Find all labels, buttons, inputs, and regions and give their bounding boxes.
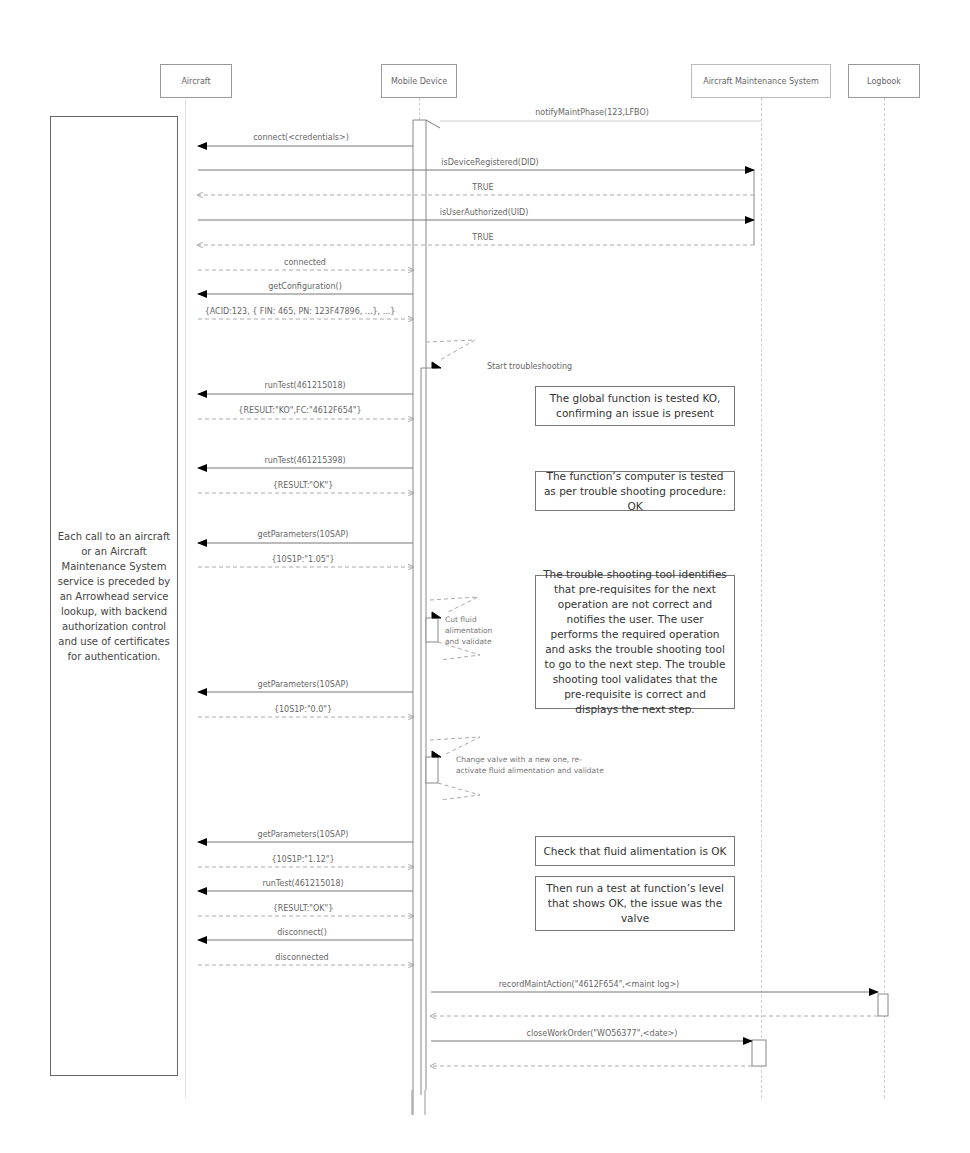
message-label: disconnect() (277, 928, 327, 937)
message-label: isUserAuthorized(UID) (440, 208, 529, 217)
message-label: runTest(461215398) (264, 456, 345, 465)
message-label: {10S1P:"1.12"} (271, 855, 334, 864)
message-label: {ACID:123, { FIN: 465, PN: 123F47896, ..… (205, 307, 396, 316)
message-label: TRUE (472, 233, 493, 242)
message-label: getParameters(10SAP) (258, 830, 349, 839)
message-label: getConfiguration() (268, 282, 342, 291)
self-call-label: Start troubleshooting (487, 362, 572, 371)
message-label: runTest(461215018) (262, 879, 343, 888)
message-label: closeWorkOrder("WO56377",<date>) (527, 1029, 678, 1038)
message-label: getParameters(10SAP) (258, 680, 349, 689)
note-prerequisites: The trouble shooting tool identifies tha… (535, 575, 735, 709)
message-label: isDeviceRegistered(DID) (441, 158, 538, 167)
self-call-label: Change valve with a new one, re-activate… (456, 754, 606, 776)
message-label: TRUE (472, 183, 493, 192)
message-label: connect(<credentials>) (253, 133, 349, 142)
note-check-fluid: Check that fluid alimentation is OK (535, 836, 735, 866)
message-label: {RESULT:"OK"} (273, 904, 334, 913)
note-run-test-ok: Then run a test at function’s level that… (535, 876, 735, 931)
message-label: {10S1P:"1.05"} (271, 555, 334, 564)
message-label: runTest(461215018) (264, 381, 345, 390)
note-global-function-ko: The global function is tested KO, confir… (535, 386, 735, 426)
message-label: {RESULT:"KO",FC:"4612F654"} (238, 406, 361, 415)
message-label: getParameters(10SAP) (258, 530, 349, 539)
message-label: connected (284, 258, 326, 267)
self-call-label: Cut fluid alimentation and validate (445, 614, 493, 647)
message-label: {10S1P:"0.0"} (274, 705, 332, 714)
sequence-arrows (0, 0, 970, 1153)
message-label: recordMaintAction("4612F654",<maint log>… (499, 980, 680, 989)
message-label: disconnected (275, 953, 328, 962)
note-computer-tested-ok: The function’s computer is tested as per… (535, 471, 735, 511)
message-label: notifyMaintPhase(123,LFBO) (535, 108, 649, 117)
message-label: {RESULT:"OK"} (273, 481, 334, 490)
